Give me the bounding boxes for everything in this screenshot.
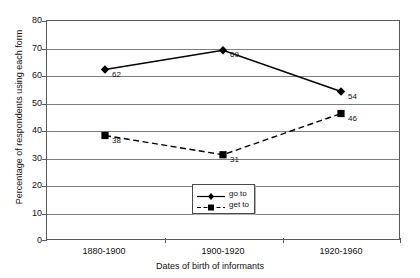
legend-label: go to [229, 190, 247, 198]
y-axis-title: Percentage of respondents using each for… [14, 2, 24, 232]
x-tick [283, 238, 284, 243]
data-point-label: 31 [230, 156, 239, 164]
gridline [47, 104, 399, 105]
data-point-label: 69 [230, 51, 239, 59]
data-point-label: 46 [348, 115, 357, 123]
gridline [47, 131, 399, 132]
x-tick [400, 238, 401, 243]
legend-label: get to [229, 201, 249, 209]
data-point-label: 54 [348, 93, 357, 101]
gridline [47, 159, 399, 160]
legend: go to get to [192, 184, 255, 214]
y-tick-label: 0 [16, 236, 42, 245]
x-axis-title: Dates of birth of informants [0, 261, 420, 271]
gridline [47, 76, 399, 77]
legend-item-get-to: get to [196, 199, 249, 210]
gridline [47, 49, 399, 50]
x-category-label: 1920-1960 [281, 246, 401, 256]
data-point-label: 62 [112, 71, 121, 79]
data-point-label: 38 [112, 137, 121, 145]
x-category-label: 1880-1900 [44, 246, 164, 256]
legend-key-square-icon [196, 199, 226, 210]
legend-key-diamond-icon [196, 188, 226, 199]
line-chart: 80 70 60 50 40 30 20 10 0 626954 [0, 0, 420, 278]
x-tick [165, 238, 166, 243]
legend-item-go-to: go to [196, 188, 249, 199]
x-category-label: 1900-1920 [163, 246, 283, 256]
